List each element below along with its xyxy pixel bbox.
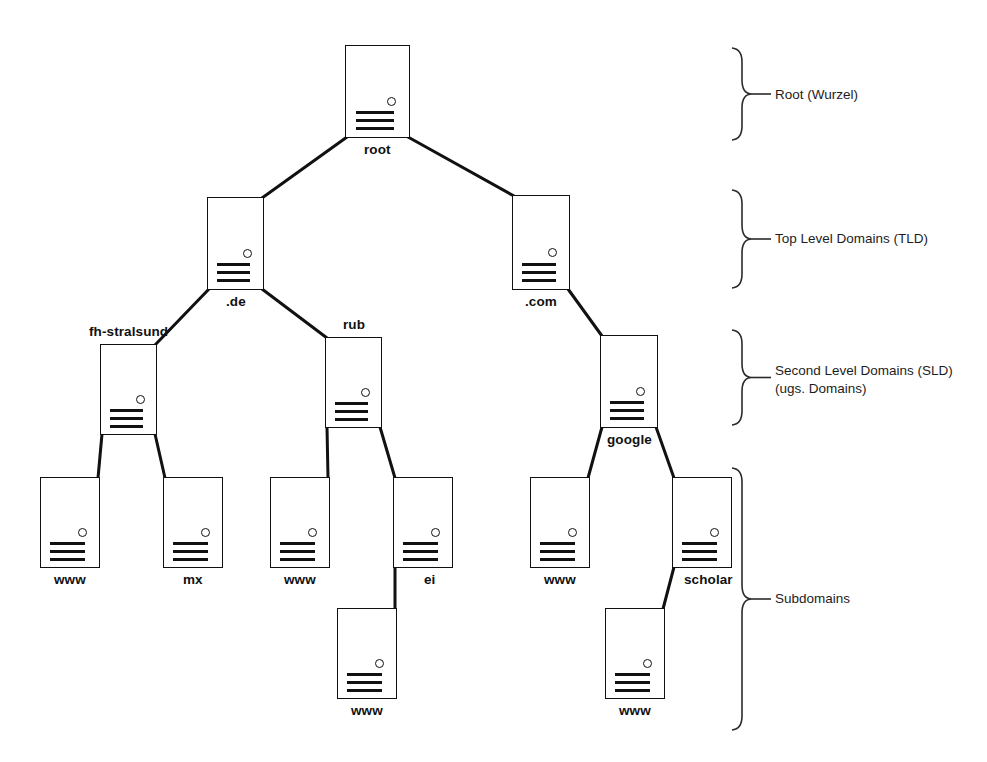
edge-de-to-rub: [262, 289, 327, 338]
node-label-www-scholar: www: [619, 703, 651, 718]
server-vent-line-icon: [615, 673, 650, 676]
edge-fh-stralsund-to-www-fhs: [98, 434, 102, 478]
brace-subdomain-level: [732, 468, 752, 730]
server-vent-line-icon: [280, 558, 315, 561]
server-vent-line-icon: [682, 550, 717, 553]
level-annotation-line: Top Level Domains (TLD): [775, 230, 928, 248]
brace-root-level: [732, 48, 752, 140]
node-label-de: .de: [226, 294, 246, 309]
edge-google-to-www-google: [588, 427, 602, 478]
server-vent-line-icon: [540, 550, 575, 553]
server-vent-line-icon: [682, 542, 717, 545]
level-annotation-line: (ugs. Domains): [775, 380, 953, 398]
server-indicator-icon: [375, 659, 384, 668]
level-annotation-subdomain-level: Subdomains: [775, 590, 850, 608]
node-label-fh-stralsund: fh-stralsund: [89, 324, 168, 339]
node-label-www-google: www: [544, 572, 576, 587]
server-indicator-icon: [243, 249, 252, 258]
server-indicator-icon: [548, 248, 557, 257]
brace-sld-level: [732, 330, 752, 425]
server-indicator-icon: [643, 659, 652, 668]
level-annotation-line: Subdomains: [775, 590, 850, 608]
level-annotation-line: Root (Wurzel): [775, 86, 858, 104]
server-vent-line-icon: [50, 558, 85, 561]
edge-google-to-scholar-google: [656, 427, 674, 478]
node-label-ei-rub: ei: [424, 572, 435, 587]
server-node-com: [512, 195, 570, 290]
server-vent-line-icon: [110, 409, 143, 412]
server-vent-line-icon: [356, 119, 394, 122]
server-vent-line-icon: [110, 417, 143, 420]
node-label-root: root: [364, 142, 391, 157]
server-vent-line-icon: [615, 681, 650, 684]
server-vent-line-icon: [610, 417, 644, 420]
server-node-scholar-google: [672, 477, 732, 568]
server-vent-line-icon: [347, 689, 382, 692]
level-annotation-tld-level: Top Level Domains (TLD): [775, 230, 928, 248]
server-indicator-icon: [201, 528, 210, 537]
server-node-www-fhs: [40, 477, 100, 568]
server-vent-line-icon: [347, 673, 382, 676]
server-vent-line-icon: [356, 111, 394, 114]
server-vent-line-icon: [610, 401, 644, 404]
node-label-mx-fhs: mx: [183, 572, 203, 587]
server-vent-line-icon: [335, 410, 368, 413]
server-vent-line-icon: [403, 550, 438, 553]
server-vent-line-icon: [173, 550, 208, 553]
server-vent-line-icon: [522, 271, 556, 274]
server-indicator-icon: [387, 97, 396, 106]
server-node-root: [345, 45, 410, 138]
edge-com-to-google: [568, 289, 602, 336]
server-indicator-icon: [136, 395, 145, 404]
edge-scholar-google-to-www-scholar: [663, 567, 674, 609]
level-annotation-root-level: Root (Wurzel): [775, 86, 858, 104]
server-indicator-icon: [361, 388, 370, 397]
server-vent-line-icon: [522, 263, 556, 266]
node-label-www-fhs: www: [54, 572, 86, 587]
node-label-rub: rub: [343, 317, 365, 332]
server-indicator-icon: [308, 528, 317, 537]
server-vent-line-icon: [403, 558, 438, 561]
server-vent-line-icon: [173, 558, 208, 561]
level-annotation-sld-level: Second Level Domains (SLD)(ugs. Domains): [775, 362, 953, 398]
server-node-www-ei: [337, 608, 397, 699]
server-vent-line-icon: [335, 402, 368, 405]
server-vent-line-icon: [522, 279, 556, 282]
server-node-de: [207, 197, 264, 290]
edge-root-to-de: [262, 137, 347, 198]
node-label-www-ei: www: [351, 703, 383, 718]
server-vent-line-icon: [50, 542, 85, 545]
dns-hierarchy-diagram: root.de.comfh-stralsundrubgooglewwwmxwww…: [0, 0, 987, 762]
server-node-www-google: [530, 477, 590, 568]
level-annotation-line: Second Level Domains (SLD): [775, 362, 953, 380]
server-vent-line-icon: [217, 263, 250, 266]
server-vent-line-icon: [280, 550, 315, 553]
server-vent-line-icon: [217, 279, 250, 282]
server-node-www-scholar: [605, 608, 665, 699]
server-vent-line-icon: [540, 542, 575, 545]
server-node-rub: [325, 337, 382, 428]
edge-root-to-com: [408, 137, 514, 196]
server-vent-line-icon: [173, 542, 208, 545]
server-node-mx-fhs: [163, 477, 223, 568]
server-node-google: [600, 335, 658, 428]
brace-tld-level: [732, 190, 752, 288]
node-label-com: .com: [525, 294, 557, 309]
server-indicator-icon: [78, 528, 87, 537]
server-vent-line-icon: [217, 271, 250, 274]
server-vent-line-icon: [280, 542, 315, 545]
server-vent-line-icon: [682, 558, 717, 561]
server-vent-line-icon: [610, 409, 644, 412]
server-node-ei-rub: [393, 477, 453, 568]
server-indicator-icon: [431, 528, 440, 537]
node-label-scholar-google: scholar: [684, 572, 733, 587]
server-vent-line-icon: [356, 127, 394, 130]
server-node-www-rub: [270, 477, 330, 568]
server-node-fh-stralsund: [100, 344, 157, 435]
server-indicator-icon: [636, 387, 645, 396]
server-vent-line-icon: [50, 550, 85, 553]
server-vent-line-icon: [110, 425, 143, 428]
edge-rub-to-www-rub: [327, 427, 328, 478]
server-vent-line-icon: [615, 689, 650, 692]
server-indicator-icon: [568, 528, 577, 537]
